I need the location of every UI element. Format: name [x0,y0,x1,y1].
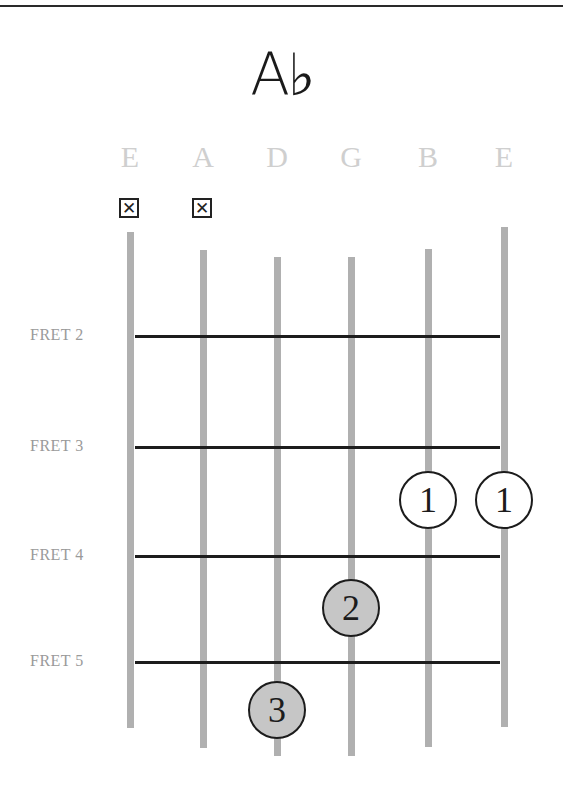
string-name-b: B [408,140,448,174]
string-name-low-e: E [110,140,150,174]
fret-label-2: FRET 2 [30,326,84,344]
fret-label-3: FRET 3 [30,437,84,455]
finger-dot-high-e-string: 1 [475,471,533,529]
fret-line-2 [135,335,500,338]
finger-dot-b-string: 1 [399,471,457,529]
mute-x-icon-a: ✕ [192,198,212,218]
string-low-e [127,232,134,728]
string-a [200,250,207,748]
fret-line-5 [135,661,500,664]
fret-line-4 [135,555,500,558]
fret-label-5: FRET 5 [30,652,84,670]
string-name-g: G [331,140,371,174]
string-name-d: D [257,140,297,174]
chord-title: A♭ [0,40,563,110]
top-rule [0,5,563,7]
fret-label-4: FRET 4 [30,546,84,564]
string-g [348,257,355,756]
fret-line-3 [135,446,500,449]
mute-x-icon-low-e: ✕ [119,198,139,218]
string-name-high-e: E [484,140,524,174]
finger-dot-g-string: 2 [322,579,380,637]
string-name-a: A [183,140,223,174]
finger-dot-d-string: 3 [248,681,306,739]
